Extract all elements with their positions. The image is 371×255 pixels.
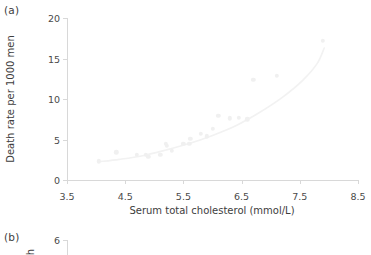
fit-curve — [67, 18, 358, 180]
x-tick — [67, 180, 68, 184]
y-tick-label: 5 — [54, 134, 60, 145]
panel-b-y-axis-line — [67, 240, 68, 255]
y-tick-label: 0 — [54, 175, 60, 186]
x-tick-label: 4.5 — [118, 191, 133, 202]
x-axis-line — [67, 180, 358, 181]
x-tick — [358, 180, 359, 184]
x-tick — [300, 180, 301, 184]
y-tick-label: 20 — [48, 13, 60, 24]
x-tick-label: 5.5 — [176, 191, 191, 202]
x-tick — [242, 180, 243, 184]
x-tick-label: 7.5 — [292, 191, 307, 202]
x-tick-label: 3.5 — [59, 191, 74, 202]
panel-a-plot-area: 05101520 3.54.55.56.57.58.5 — [67, 18, 358, 180]
y-tick-label: 15 — [48, 53, 60, 64]
x-tick — [125, 180, 126, 184]
panel-a-letter: (a) — [4, 4, 19, 16]
x-tick-label: 6.5 — [234, 191, 249, 202]
figure-container: (a) Death rate per 1000 men 05101520 3.5… — [0, 0, 371, 255]
y-tick-label: 10 — [48, 94, 60, 105]
panel-b-letter: (b) — [4, 231, 19, 243]
x-axis-title: Serum total cholesterol (mmol/L) — [129, 205, 294, 216]
x-tick — [183, 180, 184, 184]
panel-b-plot-area: 6 — [67, 240, 358, 255]
panel-b-y-axis-title: h — [25, 249, 36, 255]
panel-b-ytick-label: 6 — [54, 235, 60, 246]
y-axis-title: Death rate per 1000 men — [5, 35, 16, 163]
panel-b-tick — [63, 240, 67, 241]
x-tick-label: 8.5 — [350, 191, 365, 202]
